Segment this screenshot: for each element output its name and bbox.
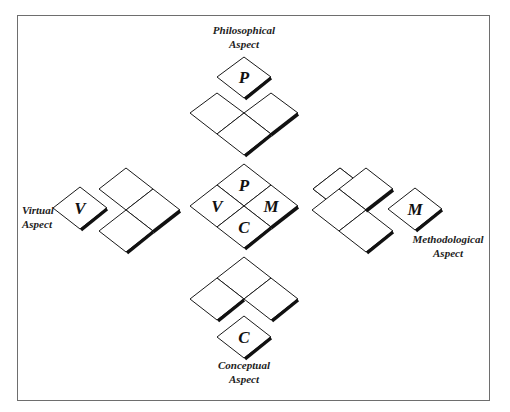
center-tile-group: P V M C bbox=[190, 164, 298, 249]
methodological-letter: M bbox=[406, 200, 423, 219]
conceptual-caption-line1: Conceptual bbox=[218, 359, 271, 371]
conceptual-letter-tile: C bbox=[217, 316, 271, 359]
conceptual-aspect: C Conceptual Aspect bbox=[190, 257, 298, 385]
virtual-caption-line1: Virtual bbox=[22, 204, 55, 216]
center-letter-top: P bbox=[238, 176, 250, 195]
virtual-letter: V bbox=[74, 199, 87, 218]
conceptual-tile-group bbox=[190, 257, 298, 321]
methodological-caption-line2: Aspect bbox=[432, 247, 464, 259]
virtual-aspect: Virtual Aspect V bbox=[21, 168, 180, 253]
philosophical-caption-line1: Philosophical bbox=[213, 24, 276, 36]
philosophical-caption-line2: Aspect bbox=[228, 38, 260, 50]
philosophical-aspect: Philosophical Aspect P bbox=[190, 24, 298, 156]
methodological-caption-line1: Methodological bbox=[412, 233, 485, 245]
philosophical-letter-tile: P bbox=[217, 57, 271, 99]
virtual-tile-group bbox=[99, 168, 180, 253]
center-letter-left: V bbox=[211, 197, 224, 216]
diagram-svg: Philosophical Aspect P bbox=[0, 0, 510, 412]
center-letter-bottom: C bbox=[238, 218, 250, 237]
methodological-letter-tile: M bbox=[388, 188, 442, 231]
conceptual-caption-line2: Aspect bbox=[228, 373, 260, 385]
philosophical-tile-group bbox=[190, 93, 298, 156]
conceptual-letter: C bbox=[238, 328, 250, 347]
diagram-canvas: Philosophical Aspect P bbox=[0, 0, 510, 412]
philosophical-letter: P bbox=[238, 68, 250, 87]
virtual-caption-line2: Aspect bbox=[21, 218, 53, 230]
virtual-letter-tile: V bbox=[53, 187, 107, 230]
center-letter-right: M bbox=[262, 197, 279, 216]
